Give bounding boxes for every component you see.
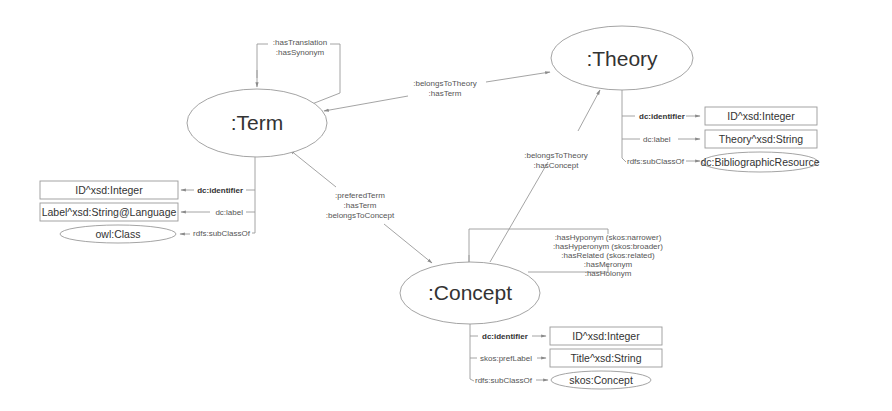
ontology-diagram: :hasTranslation:hasSynonym :belongsToThe… <box>0 0 892 411</box>
edge-label: :preferedTerm:hasTerm:belongsToConcept <box>326 191 395 220</box>
svg-text::Concept: :Concept <box>428 281 512 304</box>
edge-term-theory: :belongsToTheory:hasTerm <box>324 72 550 111</box>
concept-prop-preflabel: skos:prefLabel <box>480 354 532 363</box>
svg-text:Theory^xsd:String: Theory^xsd:String <box>719 133 803 145</box>
edge-term-concept: :preferedTerm:hasTerm:belongsToConcept <box>290 150 432 263</box>
term-prop-subclassof: rdfs:subClassOf <box>193 229 251 238</box>
svg-text::Theory: :Theory <box>586 47 658 70</box>
svg-text:ID^xsd:Integer: ID^xsd:Integer <box>572 330 640 342</box>
edge-label: :belongsToTheory:hasConcept <box>524 151 588 170</box>
svg-text:ID^xsd:Integer: ID^xsd:Integer <box>75 184 143 196</box>
svg-text:Title^xsd:String: Title^xsd:String <box>570 352 641 364</box>
theory-prop-identifier: dc:identifier <box>639 112 685 121</box>
edge-label: :hasTranslation:hasSynonym <box>273 38 327 57</box>
node-theory[interactable]: :Theory <box>551 26 693 90</box>
term-prop-label: dc:label <box>215 208 243 217</box>
concept-properties: dc:identifier ID^xsd:Integer skos:prefLa… <box>470 324 662 389</box>
term-properties: dc:identifier ID^xsd:Integer dc:label La… <box>40 157 255 243</box>
theory-prop-label: dc:label <box>643 135 671 144</box>
theory-prop-subclassof: rdfs:subClassOf <box>627 157 685 166</box>
edge-label: :hasHyponym (skos:narrower):hasHyperonym… <box>553 233 663 278</box>
theory-properties: dc:identifier ID^xsd:Integer dc:label Th… <box>622 90 820 172</box>
edge-label: :belongsToTheory:hasTerm <box>413 79 477 98</box>
term-prop-identifier: dc:identifier <box>197 186 243 195</box>
node-concept[interactable]: :Concept <box>400 262 540 324</box>
concept-prop-subclassof: rdfs:subClassOf <box>475 376 533 385</box>
node-term[interactable]: :Term <box>187 89 327 157</box>
svg-text:owl:Class: owl:Class <box>96 228 141 240</box>
svg-text:dc:BibliographicResource: dc:BibliographicResource <box>700 156 819 168</box>
svg-text:Label^xsd:String@Language: Label^xsd:String@Language <box>42 206 177 218</box>
concept-prop-identifier: dc:identifier <box>482 332 528 341</box>
svg-text:ID^xsd:Integer: ID^xsd:Integer <box>727 110 795 122</box>
svg-text:skos:Concept: skos:Concept <box>569 374 633 386</box>
svg-text::Term: :Term <box>231 111 284 134</box>
